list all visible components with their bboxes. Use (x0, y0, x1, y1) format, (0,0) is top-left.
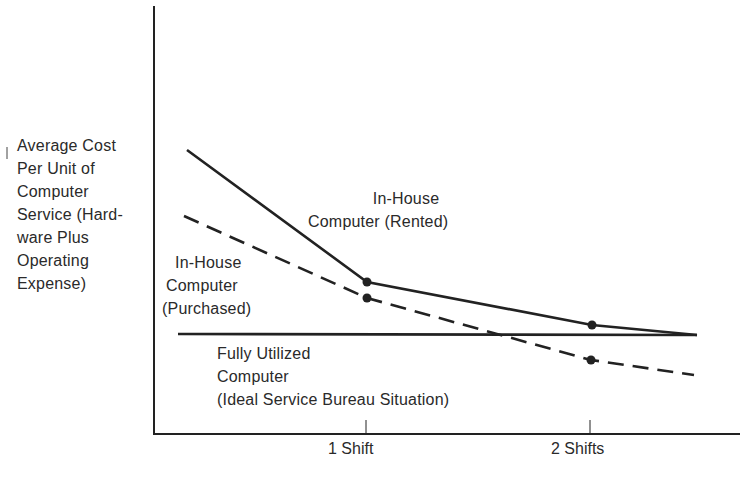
y-axis-label-line: Operating (17, 249, 123, 272)
marker-purchased-1-shift (363, 294, 372, 303)
series-ideal-label-line: Fully Utilized (217, 342, 449, 365)
series-rented-label-line: In-House (308, 187, 484, 210)
series-purchased-label: In-House Computer (Purchased) (162, 251, 251, 320)
y-axis-label-line: Service (Hard- (17, 203, 123, 226)
marker-rented-2-shifts (588, 321, 597, 330)
series-ideal-line (178, 334, 697, 335)
marker-rented-1-shift (363, 278, 372, 287)
y-axis-label-line: Computer (17, 180, 123, 203)
series-rented-line (187, 150, 697, 335)
series-rented-label-line: Computer (Rented) (308, 210, 484, 233)
series-ideal-label-line: Computer (217, 365, 449, 388)
y-axis-label-line: Per Unit of (17, 157, 123, 180)
series-ideal-label-line: (Ideal Service Bureau Situation) (217, 388, 449, 411)
y-axis-label-line: Expense) (17, 272, 123, 295)
x-tick-label-2-shifts: 2 Shifts (551, 440, 604, 458)
x-tick-label-1-shift: 1 Shift (328, 440, 373, 458)
y-axis-label-line: Average Cost (17, 134, 123, 157)
marker-purchased-2-shifts (587, 356, 596, 365)
series-purchased-label-line: In-House (162, 251, 251, 274)
series-purchased-label-line: (Purchased) (162, 297, 251, 320)
y-axis-label-line: ware Plus (17, 226, 123, 249)
series-purchased-label-line: Computer (162, 274, 251, 297)
y-axis-label: Average Cost Per Unit of Computer Servic… (17, 134, 123, 295)
series-rented-label: In-House Computer (Rented) (308, 187, 484, 233)
series-ideal-label: Fully Utilized Computer (Ideal Service B… (217, 342, 449, 411)
